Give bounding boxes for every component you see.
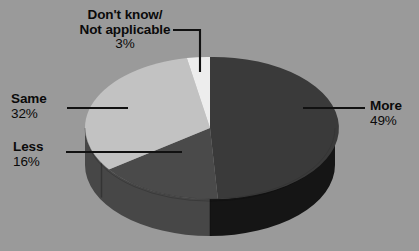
- slice-label-more: More 49%: [370, 99, 402, 128]
- slice-value-less: 16%: [13, 155, 43, 170]
- slice-value-dontknow: 3%: [60, 37, 190, 52]
- slice-label-more-text: More: [370, 99, 402, 114]
- slice-value-same: 32%: [11, 107, 47, 122]
- slice-value-more: 49%: [370, 114, 402, 129]
- slice-label-dontknow-line2: Not applicable: [60, 23, 190, 38]
- slice-label-dontknow-line1: Don't know/: [60, 8, 190, 23]
- slice-label-dontknow: Don't know/ Not applicable 3%: [60, 8, 190, 52]
- pie-chart-figure: Don't know/ Not applicable 3% Same 32% L…: [0, 0, 419, 251]
- slice-label-same: Same 32%: [11, 92, 47, 121]
- slice-label-less: Less 16%: [13, 140, 43, 169]
- slice-label-less-text: Less: [13, 140, 43, 155]
- slice-label-same-text: Same: [11, 92, 47, 107]
